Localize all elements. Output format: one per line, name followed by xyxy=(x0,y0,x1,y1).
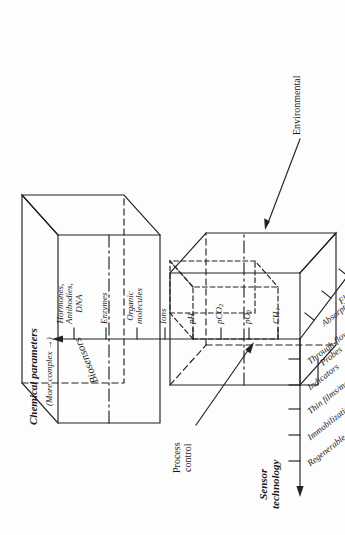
tick-label-ions: Ions xyxy=(159,309,168,325)
callout-process-control: Processcontrol xyxy=(172,442,193,473)
figure-page: Chemical parameters (More complex →) CH4… xyxy=(0,0,345,535)
axis-note-chemical: (More complex →) xyxy=(45,337,54,406)
tick-label-ch4: CH4 xyxy=(272,308,282,324)
tick-label-hormones-antibodies-dna: Hormones,Antibodies,DNA xyxy=(56,283,84,324)
tick-label-pco2: pCO2 xyxy=(215,304,225,324)
inner-box-right xyxy=(170,261,278,287)
axis-title-sensor-technology: Sensortechnology xyxy=(258,460,281,510)
tick-label-organic-molecules: Organicmolecules xyxy=(126,288,145,324)
axis-sensor-arrowhead xyxy=(296,486,303,497)
process-control-leader xyxy=(196,349,249,425)
tick-raman xyxy=(339,269,345,276)
callout-environmental: Environmental xyxy=(292,76,303,135)
rotated-figure-canvas: Chemical parameters (More complex →) CH4… xyxy=(0,0,345,535)
biosensors-right-face xyxy=(22,195,160,235)
environmental-leader xyxy=(268,139,300,223)
tick-absorption xyxy=(305,313,314,320)
axis-title-chemical: Chemical parameters xyxy=(28,328,40,425)
lower-hidden-edges xyxy=(206,233,336,345)
tick-label-ph: pH xyxy=(187,313,196,324)
lower-hidden-corner xyxy=(170,345,206,385)
tick-label-po2: pO2 xyxy=(243,310,253,324)
lower-right-face xyxy=(170,233,336,273)
tick-label-enzymes: Enzymes xyxy=(100,293,109,325)
tick-fluorescence xyxy=(322,291,331,298)
